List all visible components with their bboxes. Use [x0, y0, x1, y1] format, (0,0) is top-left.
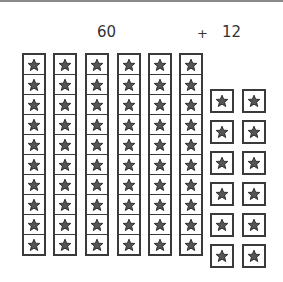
- star-icon: [27, 58, 41, 72]
- unit-cell: [119, 55, 139, 75]
- unit-cell: [55, 195, 75, 215]
- star-icon: [27, 158, 41, 172]
- tens-label: 60: [97, 23, 116, 41]
- unit-cell: [87, 195, 107, 215]
- star-icon: [27, 138, 41, 152]
- star-icon: [90, 178, 104, 192]
- star-icon: [90, 118, 104, 132]
- star-icon: [122, 118, 136, 132]
- unit-cell: [150, 75, 170, 95]
- ten-rod: [85, 53, 109, 256]
- unit-cell: [55, 235, 75, 254]
- ten-rod: [53, 53, 77, 256]
- unit-cell: [181, 235, 201, 254]
- ten-rod: [22, 53, 46, 256]
- unit-cell: [119, 175, 139, 195]
- unit-cell: [24, 75, 44, 95]
- star-icon: [90, 198, 104, 212]
- unit-box: [210, 151, 234, 175]
- star-icon: [247, 94, 261, 108]
- star-icon: [215, 218, 229, 232]
- star-icon: [90, 78, 104, 92]
- unit-cell: [150, 175, 170, 195]
- unit-cell: [87, 115, 107, 135]
- unit-cell: [150, 95, 170, 115]
- unit-box: [242, 120, 266, 144]
- unit-cell: [24, 95, 44, 115]
- unit-cell: [24, 235, 44, 254]
- star-icon: [122, 178, 136, 192]
- unit-cell: [181, 55, 201, 75]
- star-icon: [90, 158, 104, 172]
- star-icon: [90, 58, 104, 72]
- star-icon: [153, 178, 167, 192]
- star-icon: [215, 94, 229, 108]
- unit-cell: [150, 215, 170, 235]
- star-icon: [153, 138, 167, 152]
- star-icon: [122, 98, 136, 112]
- unit-box: [242, 151, 266, 175]
- unit-box: [210, 120, 234, 144]
- unit-box: [210, 244, 234, 268]
- unit-cell: [181, 175, 201, 195]
- unit-cell: [181, 135, 201, 155]
- star-icon: [27, 118, 41, 132]
- plus-sign: +: [197, 26, 208, 41]
- unit-cell: [87, 95, 107, 115]
- star-icon: [58, 238, 72, 252]
- unit-cell: [55, 75, 75, 95]
- unit-cell: [55, 115, 75, 135]
- unit-cell: [119, 235, 139, 254]
- star-icon: [184, 238, 198, 252]
- star-icon: [58, 218, 72, 232]
- star-icon: [90, 238, 104, 252]
- star-icon: [58, 158, 72, 172]
- star-icon: [184, 58, 198, 72]
- unit-cell: [55, 95, 75, 115]
- unit-cell: [150, 155, 170, 175]
- star-icon: [215, 125, 229, 139]
- star-icon: [184, 138, 198, 152]
- star-icon: [215, 249, 229, 263]
- star-icon: [184, 218, 198, 232]
- star-icon: [58, 118, 72, 132]
- star-icon: [90, 218, 104, 232]
- star-icon: [184, 78, 198, 92]
- unit-cell: [55, 155, 75, 175]
- unit-cell: [119, 95, 139, 115]
- star-icon: [58, 98, 72, 112]
- unit-cell: [119, 75, 139, 95]
- unit-box: [242, 182, 266, 206]
- star-icon: [122, 78, 136, 92]
- unit-cell: [87, 155, 107, 175]
- star-icon: [58, 78, 72, 92]
- star-icon: [247, 218, 261, 232]
- unit-cell: [24, 155, 44, 175]
- unit-cell: [24, 55, 44, 75]
- unit-box: [242, 89, 266, 113]
- unit-cell: [55, 175, 75, 195]
- top-border: [0, 0, 283, 2]
- star-icon: [58, 138, 72, 152]
- unit-cell: [24, 175, 44, 195]
- unit-cell: [87, 215, 107, 235]
- star-icon: [153, 158, 167, 172]
- star-icon: [184, 118, 198, 132]
- ones-label: 12: [222, 23, 241, 41]
- star-icon: [90, 98, 104, 112]
- unit-cell: [150, 195, 170, 215]
- unit-cell: [24, 135, 44, 155]
- ten-rod: [148, 53, 172, 256]
- unit-cell: [119, 215, 139, 235]
- unit-cell: [24, 195, 44, 215]
- unit-cell: [87, 175, 107, 195]
- unit-cell: [150, 115, 170, 135]
- unit-cell: [181, 75, 201, 95]
- star-icon: [247, 187, 261, 201]
- unit-cell: [87, 135, 107, 155]
- star-icon: [122, 218, 136, 232]
- unit-cell: [119, 155, 139, 175]
- unit-cell: [24, 215, 44, 235]
- unit-cell: [55, 55, 75, 75]
- star-icon: [122, 198, 136, 212]
